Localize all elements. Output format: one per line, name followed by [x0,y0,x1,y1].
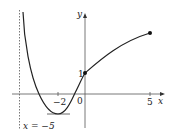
curve-right-branch [85,33,150,73]
tick-label-5: 5 [147,97,153,107]
asymptote-label: x = −5 [23,121,55,131]
point-5-3 [148,31,152,35]
x-axis-label: x [158,96,163,106]
tick-label-neg2: −2 [53,97,66,107]
origin-label: 0 [77,96,83,106]
y-axis-label: y [76,9,83,19]
tick-label-y1: 1 [78,69,84,79]
function-graph: y x 0 −2 5 1 x = −5 [0,0,173,136]
y-axis-arrow-icon [83,13,87,18]
